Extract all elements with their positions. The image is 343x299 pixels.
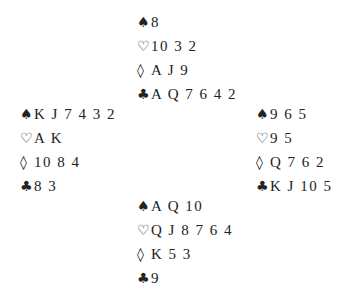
club-icon: ♣ [20,174,34,198]
south-spades: ♠A Q 10 [137,194,233,218]
diamond-icon: ◊ [256,150,270,174]
west-hearts: ♡A K [20,126,116,150]
diamond-icon: ◊ [137,58,151,82]
club-icon: ♣ [137,82,151,106]
south-hand: ♠A Q 10 ♡Q J 8 7 6 4 ◊K 5 3 ♣9 [137,194,233,290]
west-clubs: ♣8 3 [20,174,116,198]
south-hearts: ♡Q J 8 7 6 4 [137,218,233,242]
heart-icon: ♡ [256,126,270,150]
east-spades: ♠9 6 5 [256,102,332,126]
diamond-icon: ◊ [20,150,34,174]
spade-icon: ♠ [256,102,270,126]
east-hearts: ♡9 5 [256,126,332,150]
west-hand: ♠K J 7 4 3 2 ♡A K ◊10 8 4 ♣8 3 [20,102,116,198]
north-hand: ♠8 ♡10 3 2 ◊A J 9 ♣A Q 7 6 4 2 [137,10,237,106]
spade-icon: ♠ [20,102,34,126]
spade-icon: ♠ [137,10,151,34]
heart-icon: ♡ [137,218,151,242]
diamond-icon: ◊ [137,242,151,266]
heart-icon: ♡ [137,34,151,58]
club-icon: ♣ [137,266,151,290]
north-clubs: ♣A Q 7 6 4 2 [137,82,237,106]
club-icon: ♣ [256,174,270,198]
north-hearts: ♡10 3 2 [137,34,237,58]
heart-icon: ♡ [20,126,34,150]
north-diamonds: ◊A J 9 [137,58,237,82]
east-diamonds: ◊Q 7 6 2 [256,150,332,174]
east-clubs: ♣K J 10 5 [256,174,332,198]
west-diamonds: ◊10 8 4 [20,150,116,174]
south-diamonds: ◊K 5 3 [137,242,233,266]
west-spades: ♠K J 7 4 3 2 [20,102,116,126]
south-clubs: ♣9 [137,266,233,290]
east-hand: ♠9 6 5 ♡9 5 ◊Q 7 6 2 ♣K J 10 5 [256,102,332,198]
north-spades: ♠8 [137,10,237,34]
spade-icon: ♠ [137,194,151,218]
